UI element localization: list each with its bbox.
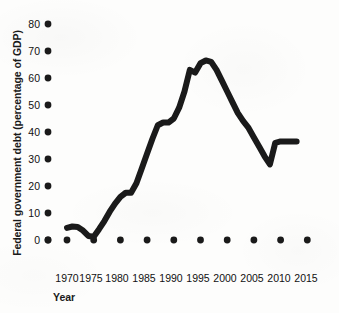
y-tick-marks bbox=[45, 21, 52, 244]
x-tick-marks bbox=[45, 237, 311, 244]
plot-area bbox=[0, 0, 339, 313]
chart-figure: Federal government debt (percentage of G… bbox=[0, 0, 339, 313]
data-series-line bbox=[67, 60, 297, 236]
